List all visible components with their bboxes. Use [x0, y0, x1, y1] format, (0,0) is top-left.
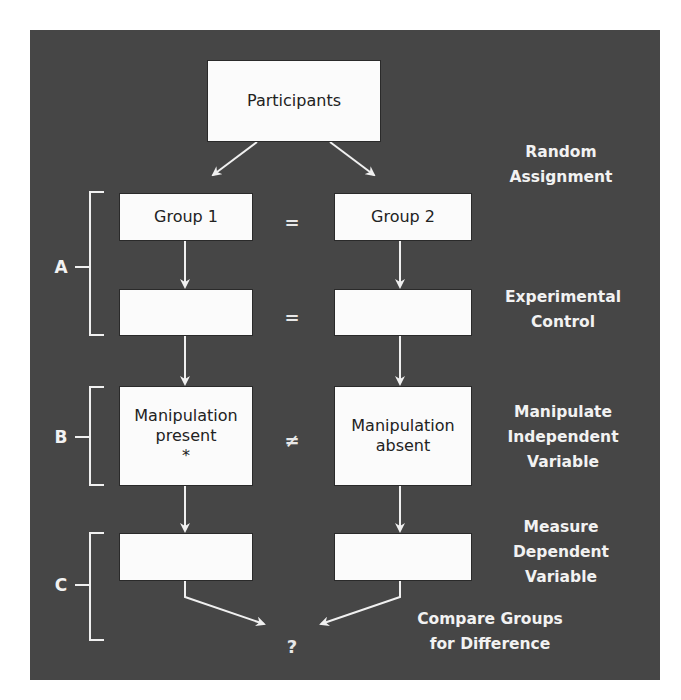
manipulation-present-box: Manipulation present * — [119, 386, 253, 486]
label-manipulate-iv-line3: Variable — [507, 450, 618, 475]
manipulation-absent-line1: Manipulation — [351, 416, 454, 436]
label-random-assignment: Random Assignment — [510, 140, 613, 190]
bracket-letter-b: B — [55, 427, 68, 447]
bracket-letter-a: A — [54, 257, 67, 277]
control1-box — [119, 289, 253, 336]
group1-label: Group 1 — [154, 207, 218, 227]
group2-box: Group 2 — [334, 193, 472, 241]
label-measure-dv-line2: Dependent — [513, 540, 609, 565]
question-mark: ? — [287, 636, 297, 657]
equals-symbol-groups: = — [284, 212, 299, 233]
label-manipulate-iv-line2: Independent — [507, 425, 618, 450]
manipulation-present-line2: present — [156, 426, 217, 446]
control2-box — [334, 289, 472, 336]
label-experimental-control-line1: Experimental — [505, 285, 621, 310]
label-manipulate-iv-line1: Manipulate — [507, 400, 618, 425]
measure2-box — [334, 533, 472, 581]
equals-symbol-control: = — [284, 307, 299, 328]
label-measure-dv-line3: Variable — [513, 565, 609, 590]
participants-box: Participants — [207, 60, 381, 142]
label-random-assignment-line2: Assignment — [510, 165, 613, 190]
manipulation-absent-box: Manipulation absent — [334, 386, 472, 486]
label-measure-dv: Measure Dependent Variable — [513, 515, 609, 590]
group2-label: Group 2 — [371, 207, 435, 227]
bracket-letter-c: C — [55, 575, 67, 595]
label-compare-groups-line1: Compare Groups — [417, 607, 563, 632]
label-experimental-control: Experimental Control — [505, 285, 621, 335]
label-measure-dv-line1: Measure — [513, 515, 609, 540]
manipulation-present-asterisk: * — [182, 446, 190, 466]
not-equal-symbol: ≠ — [284, 430, 299, 451]
label-experimental-control-line2: Control — [505, 310, 621, 335]
label-compare-groups: Compare Groups for Difference — [417, 607, 563, 657]
label-compare-groups-line2: for Difference — [417, 632, 563, 657]
label-manipulate-iv: Manipulate Independent Variable — [507, 400, 618, 475]
measure1-box — [119, 533, 253, 581]
label-random-assignment-line1: Random — [510, 140, 613, 165]
manipulation-absent-line2: absent — [376, 436, 431, 456]
group1-box: Group 1 — [119, 193, 253, 241]
manipulation-present-line1: Manipulation — [134, 406, 237, 426]
participants-label: Participants — [247, 91, 341, 111]
